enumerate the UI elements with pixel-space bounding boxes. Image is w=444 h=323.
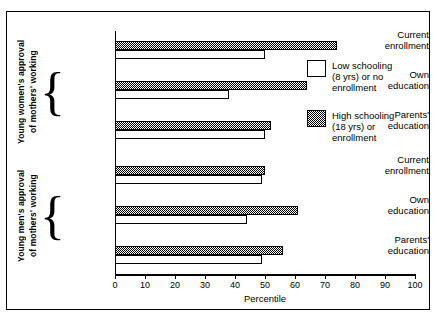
x-tick bbox=[205, 274, 206, 279]
bar-low-schooling bbox=[115, 50, 265, 59]
x-tick-label: 0 bbox=[102, 280, 128, 290]
legend-item-high: High schooling (18 yrs) or enrollment bbox=[307, 110, 425, 143]
legend: Low schooling (8 yrs) or no enrollment H… bbox=[307, 60, 425, 160]
x-tick bbox=[175, 274, 176, 279]
x-tick-label: 100 bbox=[402, 280, 428, 290]
bar-high-schooling bbox=[115, 41, 337, 50]
x-tick bbox=[415, 274, 416, 279]
x-tick-label: 40 bbox=[222, 280, 248, 290]
x-tick-label: 80 bbox=[342, 280, 368, 290]
chart-frame: Young women's approval of mothers' worki… bbox=[6, 11, 430, 310]
bar-high-schooling bbox=[115, 121, 271, 130]
x-tick-label: 90 bbox=[372, 280, 398, 290]
bar-low-schooling bbox=[115, 175, 262, 184]
x-tick-label: 20 bbox=[162, 280, 188, 290]
x-tick-label: 70 bbox=[312, 280, 338, 290]
group-label-women-sub: of mothers' working bbox=[28, 28, 39, 156]
x-tick bbox=[385, 274, 386, 279]
x-tick bbox=[115, 274, 116, 279]
x-tick bbox=[355, 274, 356, 279]
bar-high-schooling bbox=[115, 206, 298, 215]
group-label-men-line2: of mothers' working bbox=[28, 175, 38, 258]
x-tick-label: 30 bbox=[192, 280, 218, 290]
x-tick bbox=[295, 274, 296, 279]
legend-swatch-high-icon bbox=[307, 110, 326, 127]
x-tick bbox=[145, 274, 146, 279]
group-label-women-line2: of mothers' working bbox=[28, 51, 38, 134]
bar-high-schooling bbox=[115, 246, 283, 255]
group-label-men-sub: of mothers' working bbox=[28, 160, 39, 272]
legend-item-low: Low schooling (8 yrs) or no enrollment bbox=[307, 60, 425, 93]
group-label-women-line1: Young women's approval bbox=[16, 40, 26, 144]
bar-low-schooling bbox=[115, 215, 247, 224]
group-label-women: Young women's approval bbox=[16, 28, 27, 156]
bar-low-schooling bbox=[115, 130, 265, 139]
x-tick bbox=[265, 274, 266, 279]
legend-label-high: High schooling (18 yrs) or enrollment bbox=[332, 110, 394, 143]
x-tick-label: 50 bbox=[252, 280, 278, 290]
x-tick bbox=[325, 274, 326, 279]
group-label-men-line1: Young men's approval bbox=[16, 170, 26, 262]
bar-low-schooling bbox=[115, 255, 262, 264]
x-axis-title: Percentile bbox=[115, 293, 415, 304]
group-label-men: Young men's approval bbox=[16, 160, 27, 272]
x-tick bbox=[235, 274, 236, 279]
x-tick-label: 60 bbox=[282, 280, 308, 290]
x-tick-label: 10 bbox=[132, 280, 158, 290]
legend-swatch-low-icon bbox=[307, 60, 326, 77]
bar-low-schooling bbox=[115, 90, 229, 99]
legend-label-low: Low schooling (8 yrs) or no enrollment bbox=[332, 60, 392, 93]
bar-high-schooling bbox=[115, 166, 265, 175]
bar-high-schooling bbox=[115, 81, 307, 90]
